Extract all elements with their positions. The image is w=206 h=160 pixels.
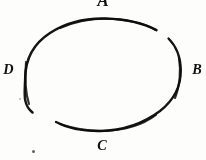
ellipse-arc-lower-right <box>56 39 181 132</box>
point-label-b: B <box>192 62 202 77</box>
point-label-a: A <box>97 0 108 9</box>
ellipse-arc-upper-left <box>25 19 157 113</box>
faint-ink-dot <box>19 98 21 100</box>
point-label-c: C <box>97 138 107 153</box>
ink-speck-mark <box>32 150 35 153</box>
point-label-d: D <box>3 62 13 77</box>
ellipse-drawing-canvas <box>0 0 206 160</box>
ellipse-diagram-figure: A B C D <box>0 0 206 160</box>
ink-weight-top <box>60 19 155 30</box>
ink-weight-bottom <box>60 115 156 131</box>
